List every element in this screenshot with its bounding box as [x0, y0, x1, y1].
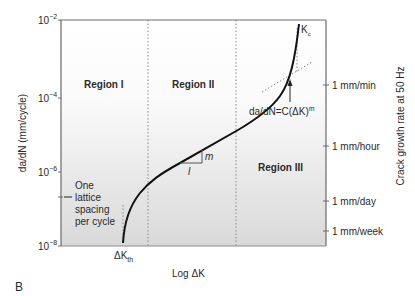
right-tick-min: 1 mm/min	[332, 80, 376, 91]
y-axis-label: da/dN (mm/cycle)	[17, 94, 28, 172]
y-tick-1e-6: 10−6	[38, 165, 57, 178]
right-tick-week: 1 mm/week	[332, 226, 384, 237]
right-axis-label: Crack growth rate at 50 Hz	[395, 67, 406, 186]
region-1-label: Region I	[84, 79, 124, 90]
right-tick-hour: 1 mm/hour	[332, 141, 380, 152]
region-3-label: Region III	[258, 162, 303, 173]
y-tick-1e-4: 10−4	[38, 91, 57, 104]
paris-law-label: da/dN=C(ΔK)m	[249, 105, 315, 117]
slope-m-label: m	[205, 151, 213, 162]
y-tick-1e-8: 10−8	[38, 239, 57, 252]
x-axis-label: Log ΔK	[172, 268, 205, 279]
fatigue-crack-growth-chart: 10−2 10−4 10−6 10−8 da/dN (mm/cycle) 1 m…	[0, 0, 415, 296]
region-2-label: Region II	[172, 79, 214, 90]
y-tick-1e-2: 10−2	[38, 13, 57, 26]
right-tick-day: 1 mm/day	[332, 196, 376, 207]
figure-label: B	[15, 280, 23, 294]
threshold-label: ΔKth	[114, 250, 133, 263]
